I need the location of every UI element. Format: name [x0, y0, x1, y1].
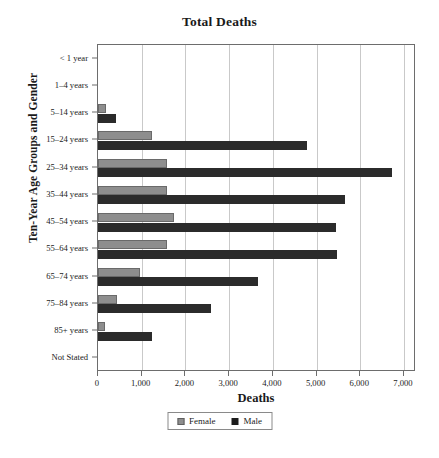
x-axis-tick-mark — [228, 371, 229, 376]
x-axis-tick-mark — [359, 371, 360, 376]
x-axis-tick-label: 2,000 — [175, 378, 194, 388]
bar-series-group — [98, 45, 414, 370]
bar-male-6 — [98, 223, 336, 232]
legend-label: Female — [189, 416, 216, 426]
bar-female-8 — [98, 268, 140, 277]
chart-title: Total Deaths — [0, 14, 439, 30]
bar-female-5 — [98, 186, 167, 195]
x-axis-tick-label: 5,000 — [306, 378, 325, 388]
x-axis-tick-label: 0 — [95, 378, 99, 388]
x-axis-tick-label: 4,000 — [262, 378, 281, 388]
y-axis-tick-label: 55–64 years — [0, 243, 88, 253]
x-axis-tick-label: 7,000 — [393, 378, 412, 388]
square-swatch-black-icon — [232, 418, 239, 425]
y-axis-tick-label: 5–14 years — [0, 107, 88, 117]
bar-male-7 — [98, 250, 337, 259]
bar-female-4 — [98, 159, 167, 168]
legend-label: Male — [244, 416, 263, 426]
legend-item-male[interactable]: Male — [232, 416, 263, 426]
y-axis-tick-label: 1–4 years — [0, 80, 88, 90]
x-axis-tick-mark — [141, 371, 142, 376]
x-axis-title: Deaths — [97, 391, 415, 406]
bar-male-5 — [98, 195, 345, 204]
bar-female-10 — [98, 322, 105, 331]
bar-male-4 — [98, 168, 392, 177]
bar-male-9 — [98, 304, 211, 313]
x-axis-tick-label: 6,000 — [350, 378, 369, 388]
bar-male-3 — [98, 141, 307, 150]
x-axis-tick-mark — [403, 371, 404, 376]
square-swatch-gray-icon — [177, 418, 184, 425]
y-axis-tick-label: 85+ years — [0, 325, 88, 335]
x-axis-tick-mark — [316, 371, 317, 376]
x-axis-tick-mark — [97, 371, 98, 376]
y-axis-tick-label: Not Stated — [0, 352, 88, 362]
y-axis-tick-labels: < 1 year1–4 years5–14 years15–24 years25… — [0, 44, 92, 371]
y-axis-tick-label: 45–54 years — [0, 216, 88, 226]
x-axis-tick-mark — [272, 371, 273, 376]
bar-male-8 — [98, 277, 258, 286]
bar-female-3 — [98, 131, 152, 140]
total-deaths-bar-chart: Total Deaths Ten-Year Age Groups and Gen… — [0, 0, 439, 458]
bar-female-2 — [98, 104, 106, 113]
x-axis-tick-label: 1,000 — [131, 378, 150, 388]
bar-female-7 — [98, 240, 167, 249]
legend-item-female[interactable]: Female — [177, 416, 216, 426]
plot-area — [97, 44, 415, 371]
chart-legend: FemaleMale — [167, 412, 272, 430]
y-axis-tick-label: 75–84 years — [0, 298, 88, 308]
x-axis-tick-mark — [184, 371, 185, 376]
x-axis-tick-label: 3,000 — [218, 378, 237, 388]
y-axis-tick-label: 15–24 years — [0, 134, 88, 144]
y-axis-tick-label: 65–74 years — [0, 271, 88, 281]
y-axis-tick-label: 35–44 years — [0, 189, 88, 199]
bar-female-9 — [98, 295, 117, 304]
y-axis-tick-label: 25–34 years — [0, 162, 88, 172]
y-axis-tick-label: < 1 year — [0, 53, 88, 63]
bar-male-2 — [98, 114, 116, 123]
bar-male-10 — [98, 332, 152, 341]
bar-female-6 — [98, 213, 174, 222]
